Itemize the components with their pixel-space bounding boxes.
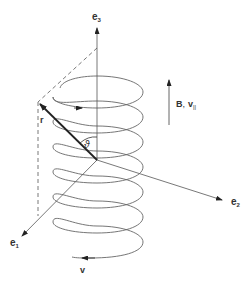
e2-label: e2 [231, 196, 241, 208]
e2-axis [97, 160, 222, 200]
helix-trajectory [53, 76, 143, 258]
b-v-parallel-label: B,v|| [176, 99, 197, 110]
e1-label: e1 [10, 237, 20, 249]
r-label: r [40, 115, 44, 125]
theta-label: ϑ [84, 139, 90, 150]
helix-diagram: e3 e2 e1 r ϑ v B,v|| [0, 0, 251, 286]
coordinate-axes [22, 28, 222, 236]
r-vector [40, 104, 97, 160]
e3-label: e3 [92, 11, 102, 23]
v-label: v [80, 265, 85, 275]
